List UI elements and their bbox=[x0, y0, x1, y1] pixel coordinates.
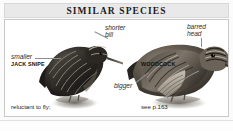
woodcock-page-reference: see p.163 bbox=[141, 104, 177, 111]
leader-line-barred-head bbox=[201, 38, 202, 47]
jack-snipe-note-line-1: reluctant to fly; bbox=[11, 104, 50, 111]
figure-header-band: SIMILAR SPECIES bbox=[4, 3, 229, 18]
figure-plate: JACK SNIPE reluctant to fly; see p.165 s… bbox=[4, 19, 229, 117]
similar-species-figure: SIMILAR SPECIES bbox=[0, 0, 233, 131]
woodcock-caption: WOODCOCK see p.163 bbox=[141, 25, 177, 116]
annotation-barred-head: barred head bbox=[187, 23, 206, 38]
annotation-shorter-bill: shorter bill bbox=[105, 24, 125, 39]
annotation-smaller: smaller bbox=[11, 53, 32, 60]
woodcock-name: WOODCOCK bbox=[141, 61, 177, 67]
annotation-bigger: bigger bbox=[114, 82, 132, 89]
figure-plate-clip: JACK SNIPE reluctant to fly; see p.165 s… bbox=[5, 20, 228, 116]
jack-snipe-caption: JACK SNIPE reluctant to fly; see p.165 bbox=[11, 25, 50, 116]
jack-snipe-name: JACK SNIPE bbox=[11, 61, 50, 67]
page-title: SIMILAR SPECIES bbox=[66, 6, 166, 16]
